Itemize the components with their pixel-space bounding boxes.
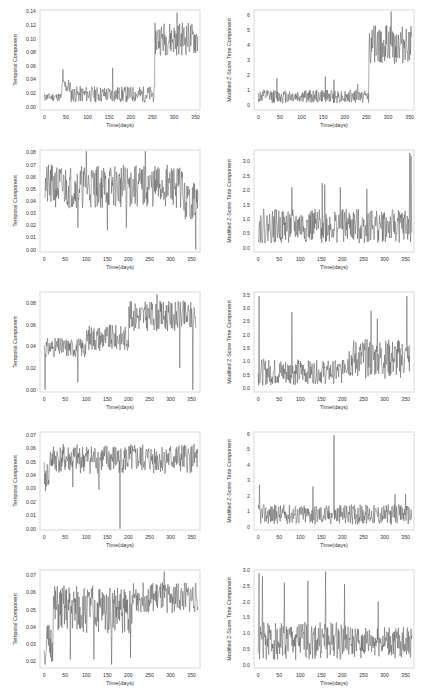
x-tick-label: 50 — [276, 396, 282, 402]
chart-panel-r5c2: 0.00.51.01.52.02.53.00501001502002503003… — [214, 560, 428, 698]
x-tick-label: 100 — [296, 256, 305, 262]
y-tick-label: 0 — [247, 102, 250, 108]
x-tick-label: 250 — [145, 396, 154, 402]
x-tick-label: 0 — [257, 114, 260, 120]
chart-panel-r2c2: 0.00.51.01.52.02.53.00501001502002503003… — [214, 140, 428, 282]
y-tick-label: 0.08 — [26, 49, 36, 55]
y-tick-label: 1.0 — [243, 358, 250, 364]
x-axis-label: Time(days) — [320, 122, 348, 128]
x-tick-label: 200 — [124, 672, 133, 678]
x-axis-label: Time(days) — [320, 542, 348, 548]
x-tick-label: 150 — [103, 396, 112, 402]
x-tick-label: 350 — [187, 256, 196, 262]
y-tick-label: 0.00 — [26, 387, 36, 393]
x-tick-label: 100 — [296, 534, 305, 540]
chart-panel-r2c1: 0.000.010.020.030.040.050.060.070.080501… — [0, 140, 214, 282]
chart-panel-r1c1: 0.000.020.040.060.080.100.120.1405010015… — [0, 0, 214, 140]
y-axis-label: Temporal Component — [12, 175, 18, 227]
y-axis-label: Temporal Component — [12, 455, 18, 507]
y-tick-label: 0.00 — [26, 526, 36, 532]
x-tick-label: 50 — [62, 672, 68, 678]
y-tick-label: 0.06 — [26, 63, 36, 69]
y-tick-label: 0 — [247, 524, 250, 530]
y-tick-label: 0.07 — [26, 572, 36, 578]
x-tick-label: 0 — [43, 534, 46, 540]
y-tick-label: 5 — [247, 27, 250, 33]
x-tick-label: 100 — [83, 114, 92, 120]
x-tick-label: 0 — [43, 256, 46, 262]
x-tick-label: 150 — [317, 672, 326, 678]
x-tick-label: 350 — [187, 396, 196, 402]
x-tick-label: 0 — [257, 256, 260, 262]
x-axis-label: Time(days) — [106, 122, 134, 128]
x-tick-label: 0 — [43, 672, 46, 678]
x-tick-label: 300 — [380, 396, 389, 402]
x-tick-label: 200 — [340, 114, 349, 120]
y-tick-label: 0.02 — [26, 365, 36, 371]
y-tick-label: 0.0 — [243, 245, 250, 251]
x-tick-label: 100 — [296, 672, 305, 678]
chart-panel-r1c2: 0123456050100150200250300350Time(days)Mo… — [214, 0, 428, 140]
y-axis-label: Modified Z-Score Time Component — [226, 300, 232, 384]
y-tick-label: 0.04 — [26, 76, 36, 82]
y-tick-label: 0.04 — [26, 343, 36, 349]
x-tick-label: 0 — [257, 672, 260, 678]
y-tick-label: 0.01 — [26, 512, 36, 518]
y-tick-label: 0.06 — [26, 445, 36, 451]
y-axis-label: Temporal Component — [12, 593, 18, 645]
y-tick-label: 4 — [247, 42, 250, 48]
y-tick-label: 2.0 — [243, 599, 250, 605]
x-tick-label: 300 — [166, 256, 175, 262]
y-axis-label: Modified Z-Score Time Component — [226, 159, 232, 243]
y-tick-label: 1.5 — [243, 345, 250, 351]
x-tick-label: 200 — [124, 256, 133, 262]
x-tick-label: 100 — [296, 396, 305, 402]
y-tick-label: 1.0 — [243, 630, 250, 636]
x-tick-label: 300 — [380, 534, 389, 540]
x-tick-label: 250 — [359, 534, 368, 540]
y-tick-label: 6 — [247, 12, 250, 18]
x-tick-label: 200 — [124, 534, 133, 540]
y-tick-label: 0.05 — [26, 607, 36, 613]
y-tick-label: 0.02 — [26, 222, 36, 228]
y-tick-label: 0.02 — [26, 658, 36, 664]
x-tick-label: 150 — [319, 114, 328, 120]
y-tick-label: 0.01 — [26, 234, 36, 240]
chart-panel-r3c1: 0.000.020.040.060.0805010015020025030035… — [0, 282, 214, 422]
y-tick-label: 1 — [247, 508, 250, 514]
chart-panel-r4c2: 0123456050100150200250300350Time(days)Mo… — [214, 422, 428, 560]
y-tick-label: 3 — [247, 477, 250, 483]
x-tick-label: 150 — [317, 256, 326, 262]
y-tick-label: 0.00 — [26, 247, 36, 253]
y-tick-label: 0.07 — [26, 162, 36, 168]
y-tick-label: 2.0 — [243, 187, 250, 193]
y-tick-label: 0.03 — [26, 210, 36, 216]
x-tick-label: 250 — [359, 256, 368, 262]
x-tick-label: 300 — [166, 534, 175, 540]
y-tick-label: 0.07 — [26, 432, 36, 438]
x-tick-label: 50 — [276, 256, 282, 262]
y-tick-label: 0.00 — [26, 104, 36, 110]
x-tick-label: 50 — [277, 114, 283, 120]
y-axis-label: Modified Z-Score Time Component — [226, 577, 232, 661]
y-tick-label: 0.5 — [243, 230, 250, 236]
x-axis-label: Time(days) — [320, 404, 348, 410]
x-tick-label: 50 — [62, 396, 68, 402]
x-tick-label: 300 — [380, 256, 389, 262]
x-axis-label: Time(days) — [106, 542, 134, 548]
y-tick-label: 0.04 — [26, 472, 36, 478]
chart-panel-r5c1: 0.020.030.040.050.060.070501001502002503… — [0, 560, 214, 698]
x-tick-label: 250 — [148, 114, 157, 120]
y-tick-label: 5 — [247, 446, 250, 452]
x-tick-label: 200 — [338, 256, 347, 262]
y-tick-label: 2.5 — [243, 583, 250, 589]
x-tick-label: 200 — [338, 534, 347, 540]
x-tick-label: 250 — [359, 672, 368, 678]
y-tick-label: 0.12 — [26, 22, 36, 28]
x-tick-label: 250 — [145, 672, 154, 678]
x-tick-label: 250 — [362, 114, 371, 120]
y-tick-label: 0.02 — [26, 90, 36, 96]
y-tick-label: 0.08 — [26, 300, 36, 306]
x-tick-label: 350 — [405, 114, 414, 120]
y-axis-label: Modified Z-Score Time Component — [226, 18, 232, 102]
